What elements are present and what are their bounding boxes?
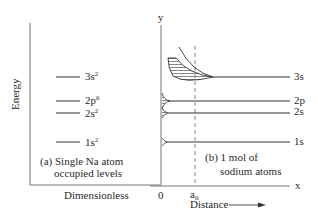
label-2p6: 2p6: [85, 95, 100, 106]
caption-a-line2: occupied levels: [54, 168, 122, 179]
caption-b-line1: (b) 1 mol of: [205, 152, 258, 163]
x-axis-label: x: [295, 180, 301, 191]
label-3s2: 3s2: [85, 71, 98, 82]
energy-band-diagram: [0, 0, 318, 217]
distance-label: Distance: [190, 199, 228, 210]
dimensionless-label: Dimensionless: [64, 190, 129, 201]
3s-band-hatched: [168, 58, 213, 80]
band-label-2s: 2s: [294, 106, 304, 117]
origin-label: 0: [158, 190, 164, 201]
caption-b-line2: sodium atoms: [220, 166, 281, 177]
y-axis-label: y: [158, 12, 164, 23]
energy-axis-label: Energy: [9, 78, 21, 110]
band-label-3s: 3s: [294, 71, 304, 82]
label-2s2: 2s2: [85, 108, 98, 119]
band-label-1s: 1s: [294, 136, 304, 147]
2s-band: [162, 108, 168, 118]
distance-arrow-head: [258, 203, 266, 208]
caption-a-line1: (a) Single Na atom: [40, 156, 123, 167]
label-1s2: 1s2: [85, 137, 98, 148]
